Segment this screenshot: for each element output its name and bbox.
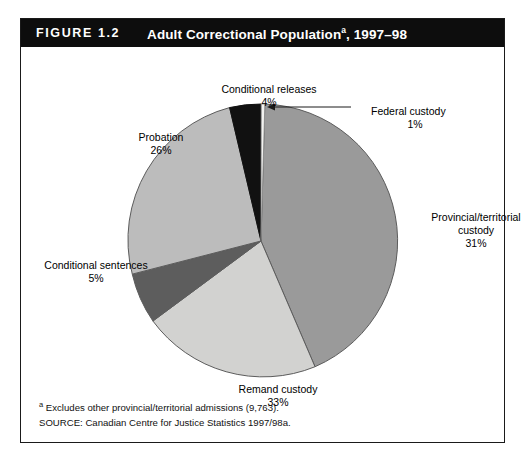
pie-label-conditional-sentences: Conditional sentences 5% xyxy=(35,259,157,285)
footnote-source: SOURCE: Canadian Centre for Justice Stat… xyxy=(39,415,479,430)
pie-label-federal-custody: Federal custody 1% xyxy=(371,105,475,131)
figure-title-years: , 1997–98 xyxy=(346,26,407,41)
pie-label-conditional-sentences-name: Conditional sentences xyxy=(44,259,147,271)
figure-title-bar: FIGURE 1.2 Adult Correctional Population… xyxy=(21,19,504,47)
pie-label-federal-custody-pct: 1% xyxy=(371,118,459,131)
figure-title-main: Adult Correctional Population xyxy=(147,26,341,41)
pie-label-remand-custody-name: Remand custody xyxy=(239,383,318,395)
pie-label-provincial-custody-name-2: custody xyxy=(419,224,522,237)
pie-label-probation-pct: 26% xyxy=(113,144,209,157)
pie-label-probation-name: Probation xyxy=(139,131,184,143)
pie-label-provincial-custody-pct: 31% xyxy=(419,237,522,250)
footnote-note: a Excludes other provincial/territorial … xyxy=(39,397,479,415)
pie-label-conditional-releases: Conditional releases 4% xyxy=(201,83,337,109)
pie-label-conditional-releases-pct: 4% xyxy=(201,96,337,109)
footnote-note-text: Excludes other provincial/territorial ad… xyxy=(43,402,279,413)
pie-chart-area: Conditional releases 4% Federal custody … xyxy=(21,47,504,409)
pie-label-conditional-sentences-pct: 5% xyxy=(35,272,157,285)
pie-label-federal-custody-name: Federal custody xyxy=(371,105,446,117)
pie-label-provincial-custody-name-1: Provincial/territorial xyxy=(431,211,520,223)
figure-frame: FIGURE 1.2 Adult Correctional Population… xyxy=(20,18,505,443)
figure-number: FIGURE 1.2 xyxy=(36,26,120,40)
figure-footnotes: a Excludes other provincial/territorial … xyxy=(39,397,479,430)
pie-label-probation: Probation 26% xyxy=(113,131,209,157)
figure-title: Adult Correctional Populationa, 1997–98 xyxy=(147,25,407,42)
pie-label-conditional-releases-name: Conditional releases xyxy=(221,83,316,95)
pie-label-provincial-custody: Provincial/territorial custody 31% xyxy=(419,211,522,250)
